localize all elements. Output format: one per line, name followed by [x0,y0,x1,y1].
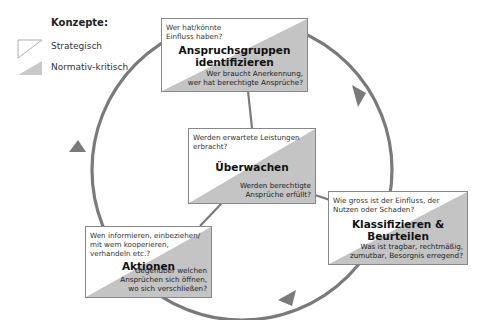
white-triangle-icon [18,40,42,58]
strategic-question: Werden erwartete Leistungen erbracht? [193,133,300,151]
box-aktionen: Wen informieren, einbeziehen/ mit wem ko… [85,226,212,298]
spoke-left [200,203,222,226]
arrow-head-left-icon [69,140,86,152]
arrow-head-right-icon [352,85,366,107]
spoke-top [248,91,252,128]
normative-question: Was ist tragbar, rechtmäßig, zumutbar, B… [350,242,463,260]
box-title: Anspruchsgruppen identifizieren [162,44,307,68]
strategic-question: Wer hat/könnte Einfluss haben? [166,23,230,41]
box-ueberwachen: Werden erwartete Leistungen erbracht? Üb… [188,128,316,204]
box-title: Überwachen [189,161,315,173]
normative-question: Gegenüber welchen Ansprüchen sich öffnen… [120,266,207,293]
legend-label-normativ: Normativ-kritisch [51,62,128,72]
gray-triangle-icon [18,61,42,75]
strategic-question: Wen informieren, einbeziehen/ mit wem ko… [90,231,200,258]
legend-title: Konzepte: [51,17,108,28]
arrow-head-bottom-icon [278,290,296,306]
normative-question: Wer braucht Anerkennung, wer hat berecht… [188,69,303,87]
legend-label-strategisch: Strategisch [51,41,102,51]
normative-question: Werden berechtigte Ansprüche erfüllt? [240,181,311,199]
box-title: Klassifizieren & Beurteilen [329,218,467,242]
box-anspruchsgruppen: Wer hat/könnte Einfluss haben? Anspruchs… [161,18,308,92]
strategic-question: Wie gross ist der Einfluss, der Nutzen o… [333,196,439,214]
box-klassifizieren: Wie gross ist der Einfluss, der Nutzen o… [328,191,468,265]
